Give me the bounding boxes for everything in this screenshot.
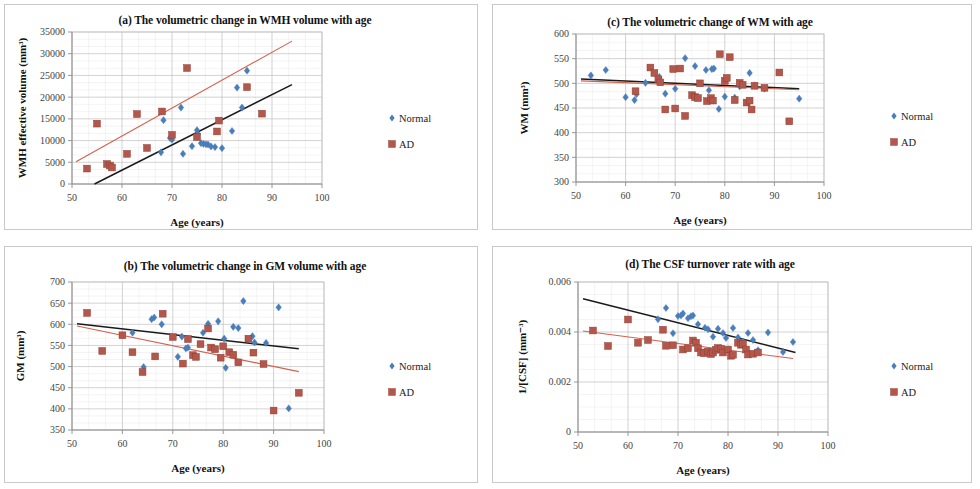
x-tick-label: 50 [571, 190, 581, 201]
data-point-ad [230, 351, 237, 358]
data-point-normal [161, 117, 167, 124]
data-point-ad [94, 120, 101, 127]
x-tick-label: 50 [67, 438, 77, 449]
data-point-ad [109, 164, 116, 171]
data-point-normal [706, 87, 712, 94]
x-tick-label: 90 [267, 192, 277, 203]
data-point-normal [603, 66, 609, 73]
y-tick-label: 35000 [40, 26, 65, 37]
y-tick-label: 0.002 [549, 376, 572, 387]
data-point-normal [682, 55, 688, 62]
x-tick-label: 90 [773, 440, 783, 451]
data-point-ad [260, 361, 267, 368]
y-axis-label: GM (mm³) [14, 330, 27, 381]
data-point-ad [84, 165, 91, 172]
data-point-normal [241, 297, 247, 304]
data-point-normal [215, 318, 221, 325]
data-point-normal [715, 325, 721, 332]
y-tick-label: 700 [50, 276, 65, 287]
data-point-normal [672, 85, 678, 92]
legend-label-normal: Normal [901, 111, 933, 122]
legend-marker-normal [891, 363, 896, 370]
data-point-ad [205, 325, 212, 332]
data-point-ad [134, 111, 141, 118]
x-tick-label: 100 [317, 438, 332, 449]
data-point-ad [159, 310, 166, 317]
data-point-ad [663, 342, 670, 349]
data-point-ad [632, 88, 639, 95]
x-tick-label: 80 [723, 440, 733, 451]
x-axis-label: Age (years) [676, 464, 730, 477]
data-point-ad [746, 97, 753, 104]
panel-d-plot: 00.0020.0040.0065060708090100Age (years)… [490, 240, 980, 489]
data-point-ad [590, 327, 597, 334]
data-point-ad [748, 106, 755, 113]
data-point-normal [662, 90, 668, 97]
legend-label-normal: Normal [399, 113, 431, 124]
figure-panel-grid: (a) The volumetric change in WMH volume … [0, 0, 980, 489]
y-tick-label: 550 [554, 53, 569, 64]
x-tick-label: 70 [673, 440, 683, 451]
y-tick-label: 450 [554, 102, 569, 113]
x-tick-label: 70 [670, 190, 680, 201]
y-tick-label: 10000 [40, 135, 65, 146]
y-tick-label: 20000 [40, 92, 65, 103]
data-point-ad [169, 334, 176, 341]
data-point-ad [723, 75, 730, 82]
data-point-ad [677, 65, 684, 72]
data-point-ad [761, 84, 768, 91]
data-point-normal [212, 143, 218, 150]
data-point-normal [223, 364, 229, 371]
data-point-ad [193, 353, 200, 360]
legend-marker-ad [389, 389, 396, 396]
data-point-ad [216, 117, 223, 124]
data-point-ad [670, 342, 677, 349]
panel-c-plot: 3003504004505005506005060708090100Age (y… [490, 0, 980, 240]
data-point-ad [685, 345, 692, 352]
legend-marker-ad [389, 141, 396, 148]
chart-panel-a: (a) The volumetric change in WMH volume … [0, 0, 490, 240]
data-point-normal [588, 72, 594, 79]
y-tick-label: 500 [554, 78, 569, 89]
chart-panel-c: (c) The volumetric change of WM with age… [490, 0, 980, 240]
legend-marker-normal [389, 363, 394, 370]
data-point-ad [751, 82, 758, 89]
panel-a-plot: 0500010000150002000025000300003500050607… [0, 0, 490, 240]
data-point-normal [229, 127, 235, 134]
legend-label-normal: Normal [901, 361, 933, 372]
legend-marker-ad [891, 139, 898, 146]
legend-marker-ad [891, 389, 898, 396]
data-point-normal [730, 324, 736, 331]
x-tick-label: 80 [218, 438, 228, 449]
x-tick-label: 70 [168, 438, 178, 449]
data-point-normal [189, 143, 195, 150]
data-point-ad [220, 343, 227, 350]
data-point-normal [716, 105, 722, 112]
y-tick-label: 5000 [45, 157, 65, 168]
x-tick-label: 100 [315, 192, 330, 203]
y-axis-label: 1/[CSF] (mm⁻³) [516, 319, 529, 394]
data-point-ad [119, 332, 126, 339]
data-point-normal [745, 329, 751, 336]
data-point-ad [179, 360, 186, 367]
x-tick-label: 60 [117, 438, 127, 449]
data-point-ad [660, 326, 667, 333]
data-point-ad [651, 70, 658, 77]
data-point-ad [657, 79, 664, 86]
x-tick-label: 70 [167, 192, 177, 203]
legend-marker-normal [891, 113, 896, 120]
data-point-ad [159, 108, 166, 115]
y-tick-label: 0 [60, 178, 65, 189]
y-tick-label: 400 [554, 127, 569, 138]
data-point-normal [747, 69, 753, 76]
y-tick-label: 0.006 [549, 276, 572, 287]
data-point-ad [755, 349, 762, 356]
x-tick-label: 90 [769, 190, 779, 201]
data-point-ad [185, 336, 192, 343]
y-axis-label: WM (mm³) [518, 81, 531, 134]
data-point-ad [124, 150, 131, 157]
data-point-ad [672, 105, 679, 112]
data-point-normal [722, 93, 728, 100]
x-axis-label: Age (years) [673, 214, 727, 227]
x-tick-label: 100 [817, 190, 832, 201]
